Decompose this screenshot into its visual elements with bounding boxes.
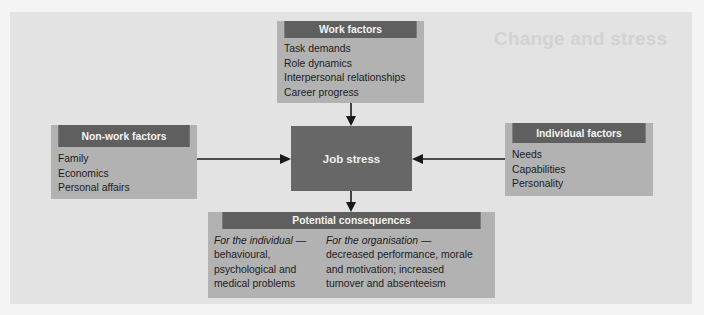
arrow-stress-to-consequences-icon [346,191,356,212]
connector-arrows [0,0,704,315]
arrow-nonwork-to-stress-icon [197,154,291,164]
arrow-individual-to-stress-icon [412,154,505,164]
arrow-work-to-stress-icon [346,103,356,126]
